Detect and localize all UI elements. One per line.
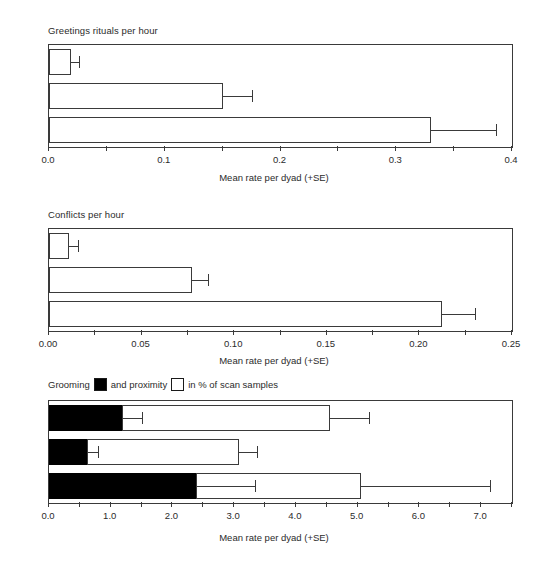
panel-2-xticklabel: 0.15 — [317, 338, 336, 349]
panel-3-xticklabel: 1.0 — [103, 510, 116, 521]
panel-2-xticklabel: 0.05 — [131, 338, 150, 349]
panel-3-errorbar-ff-total-cap — [369, 412, 370, 424]
panel-1-tick — [453, 146, 454, 151]
panel-3-errorbar-mm-grooming — [196, 486, 255, 487]
panel-2-errorbar-ff-cap — [78, 240, 79, 252]
panel-2-plot-area — [48, 228, 513, 332]
black-square-swatch-icon — [94, 378, 107, 391]
panel-3-bar-ff-grooming — [49, 405, 122, 431]
panel-1-bar-ff — [49, 49, 71, 75]
panel-greetings: Greetings rituals per hour Mean rate per… — [0, 0, 548, 195]
panel-1-bar-mf — [49, 83, 223, 109]
panel-2-xticklabel: 0.20 — [409, 338, 428, 349]
panel-1-title: Greetings rituals per hour — [48, 25, 158, 36]
panel-2-tick — [48, 330, 49, 335]
panel-1-errorbar-mf-cap — [252, 90, 253, 102]
panel-1-tick — [280, 146, 281, 151]
panel-3-xticklabel: 5.0 — [350, 510, 363, 521]
panel-2-errorbar-mf — [192, 280, 209, 281]
panel-1-xticklabel: 0.0 — [41, 154, 54, 165]
panel-1-tick — [164, 146, 165, 151]
panel-3-errorbar-mm-grooming-cap — [255, 480, 256, 492]
panel-3-tick — [48, 502, 49, 507]
panel-2-tick — [418, 330, 419, 335]
panel-3-errorbar-mf-grooming — [87, 452, 98, 453]
white-square-swatch-icon — [171, 378, 184, 391]
panel-2-tick — [511, 330, 512, 335]
panel-3-errorbar-mf-grooming-cap — [98, 446, 99, 458]
panel-1-bar-mm — [49, 117, 431, 143]
panel-3-tick — [357, 502, 358, 507]
panel-grooming: Grooming and proximity in % of scan samp… — [0, 375, 548, 574]
panel-3-errorbar-ff-grooming-cap — [142, 412, 143, 424]
panel-2-errorbar-ff — [69, 246, 77, 247]
legend-suffix-label: in % of scan samples — [188, 379, 278, 390]
panel-3-tick — [79, 502, 80, 507]
panel-1-errorbar-ff — [71, 62, 79, 63]
panel-2-tick — [141, 330, 142, 335]
panel-2-xticklabel: 0.00 — [39, 338, 58, 349]
panel-2-errorbar-mm-cap — [475, 308, 476, 320]
panel-1-xticklabel: 0.3 — [389, 154, 402, 165]
panel-1-xticklabel: 0.1 — [157, 154, 170, 165]
figure-sheet: Greetings rituals per hour Mean rate per… — [0, 0, 548, 574]
panel-2-tick — [465, 330, 466, 335]
panel-1-tick — [395, 146, 396, 151]
panel-2-tick — [372, 330, 373, 335]
panel-1-plot-area — [48, 44, 513, 148]
panel-3-tick — [202, 502, 203, 507]
panel-1-tick — [222, 146, 223, 151]
panel-2-title: Conflicts per hour — [48, 209, 124, 220]
panel-3-tick — [418, 502, 419, 507]
panel-2-errorbar-mm — [442, 314, 475, 315]
legend-prefix-label: Grooming — [48, 379, 90, 390]
panel-2-xticklabel: 0.25 — [502, 338, 521, 349]
panel-1-errorbar-mf — [223, 96, 252, 97]
panel-3-errorbar-ff-grooming — [122, 418, 142, 419]
panel-3-tick — [449, 502, 450, 507]
panel-2-tick — [233, 330, 234, 335]
panel-1-axis-title: Mean rate per dyad (+SE) — [0, 172, 548, 183]
panel-3-bar-mm-grooming — [49, 473, 196, 499]
panel-3-errorbar-mm-total-cap — [490, 480, 491, 492]
panel-3-xticklabel: 0.0 — [41, 510, 54, 521]
panel-1-xticklabel: 0.4 — [504, 154, 517, 165]
panel-conflicts: Conflicts per hour Mean rate per dyad (+… — [0, 195, 548, 375]
panel-2-tick — [326, 330, 327, 335]
panel-3-xticklabel: 7.0 — [474, 510, 487, 521]
panel-3-errorbar-mf-total — [239, 452, 258, 453]
panel-3-tick — [480, 502, 481, 507]
panel-3-xticklabel: 3.0 — [227, 510, 240, 521]
panel-1-tick — [337, 146, 338, 151]
panel-2-axis-title: Mean rate per dyad (+SE) — [0, 355, 548, 366]
panel-1-errorbar-mm-cap — [496, 124, 497, 136]
panel-1-errorbar-mm — [431, 130, 496, 131]
panel-1-xticklabel: 0.2 — [273, 154, 286, 165]
panel-3-tick — [388, 502, 389, 507]
panel-3-errorbar-mf-total-cap — [257, 446, 258, 458]
panel-3-tick — [233, 502, 234, 507]
panel-2-bar-ff — [49, 233, 69, 259]
panel-1-tick — [511, 146, 512, 151]
panel-3-bar-ff-proximity — [122, 405, 330, 431]
panel-3-legend: Grooming and proximity in % of scan samp… — [48, 378, 278, 391]
panel-2-tick — [94, 330, 95, 335]
panel-3-tick — [295, 502, 296, 507]
panel-1-tick — [48, 146, 49, 151]
panel-3-tick — [326, 502, 327, 507]
panel-2-tick — [280, 330, 281, 335]
panel-3-xticklabel: 2.0 — [165, 510, 178, 521]
panel-3-plot-area — [48, 400, 513, 504]
panel-3-errorbar-ff-total — [330, 418, 369, 419]
panel-3-xticklabel: 4.0 — [288, 510, 301, 521]
panel-3-xticklabel: 6.0 — [412, 510, 425, 521]
panel-3-errorbar-mm-total — [361, 486, 491, 487]
legend-middle-label: and proximity — [111, 379, 168, 390]
panel-2-tick — [187, 330, 188, 335]
panel-2-errorbar-mf-cap — [208, 274, 209, 286]
panel-3-axis-title: Mean rate per dyad (+SE) — [0, 532, 548, 543]
panel-3-bar-mf-proximity — [87, 439, 238, 465]
panel-3-bar-mf-grooming — [49, 439, 87, 465]
panel-2-bar-mm — [49, 301, 442, 327]
panel-1-errorbar-ff-cap — [79, 56, 80, 68]
